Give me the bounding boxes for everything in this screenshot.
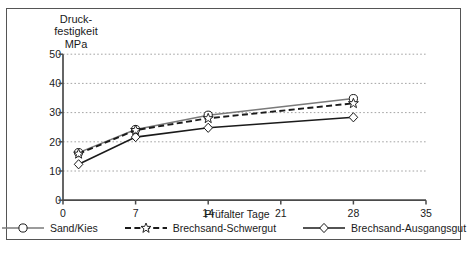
legend-marker-diamond-icon [302,222,346,234]
legend-entry-sand-kies: Sand/Kies [1,222,98,234]
legend-label-brechsand-ausgangsgut: Brechsand-Ausgangsgut [351,222,466,234]
legend-entry-brechsand-schwergut: Brechsand-Schwergut [124,222,276,234]
axis-lines [63,54,426,200]
legend-entry-brechsand-ausgangsgut: Brechsand-Ausgangsgut [302,222,466,234]
legend-label-sand-kies: Sand/Kies [50,222,98,234]
legend-label-brechsand-schwergut: Brechsand-Schwergut [173,222,276,234]
chart-svg [7,9,460,239]
legend-marker-circle-icon [1,222,45,234]
series-sand-kies [75,95,358,157]
series-brechsand-schwergut [74,98,359,158]
chart-figure: Druck- festigkeit MPa 50 40 30 20 10 0 0… [6,8,461,240]
legend-marker-star-icon [124,222,168,234]
series-brechsand-ausgangsgut [74,113,357,169]
chart-legend: Sand/Kies Brechsand-Schwergut Brechsand-… [7,219,460,237]
axis-ticks [59,54,427,204]
gridlines [63,54,426,171]
plot-stage: Druck- festigkeit MPa 50 40 30 20 10 0 0… [7,9,460,239]
